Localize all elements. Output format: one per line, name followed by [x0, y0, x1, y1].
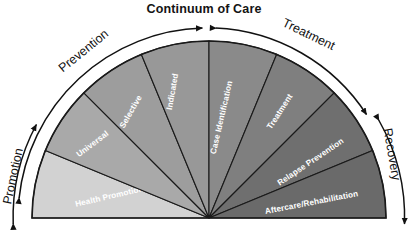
continuum-of-care-figure: Continuum of Care Health Promotion Unive…	[0, 0, 408, 233]
page-title: Continuum of Care	[0, 2, 408, 16]
arc-label-recovery: Recovery	[380, 127, 403, 182]
arc-label-prevention: Prevention	[56, 27, 111, 76]
fan-diagram-svg: Health Promotion Universal Selective Ind…	[0, 0, 408, 233]
arc-label-treatment: Treatment	[280, 16, 337, 54]
